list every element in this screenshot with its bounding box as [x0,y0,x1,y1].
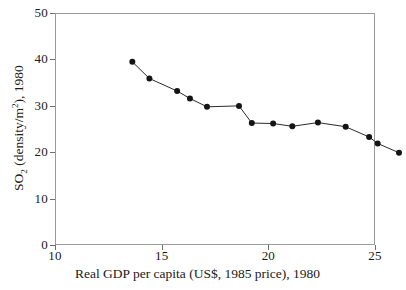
x-tick-label: 25 [355,249,395,262]
series-markers [129,59,402,156]
y-axis-title-suffix: ), 1980 [11,65,26,103]
y-axis-title-superscript: 2 [10,104,20,109]
y-tick-mark [50,199,55,200]
data-point [289,123,295,129]
y-axis-title-prefix: SO [11,174,26,191]
data-point [366,134,372,140]
data-point [187,95,193,101]
data-series-layer [111,27,406,259]
y-tick-mark [50,152,55,153]
data-point [249,120,255,126]
plot-area [55,13,375,245]
series-line [132,62,399,153]
x-tick-label: 20 [248,249,288,262]
data-point [315,120,321,126]
data-point [343,124,349,130]
x-axis-title: Real GDP per capita (US$, 1985 price), 1… [0,266,395,281]
data-point [396,150,402,156]
y-axis-title: SO2 (density/m2), 1980 [8,12,32,244]
y-tick-mark [50,13,55,14]
y-tick-mark [50,59,55,60]
data-point [204,104,210,110]
data-point [270,121,276,127]
data-point [146,76,152,82]
y-axis-title-middle: (density/m [11,108,26,169]
data-point [375,140,381,146]
y-tick-mark [50,106,55,107]
data-point [129,59,135,65]
data-point [174,88,180,94]
y-axis-title-subscript: 2 [19,169,29,174]
data-point [236,103,242,109]
x-tick-label: 15 [142,249,182,262]
x-tick-label: 10 [35,249,75,262]
